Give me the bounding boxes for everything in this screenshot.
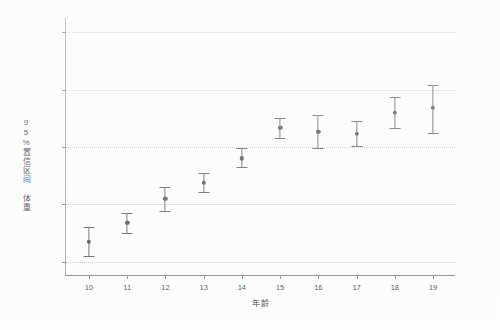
error-bar-cap-lower bbox=[275, 138, 286, 139]
error-bar-cap-upper bbox=[313, 115, 324, 116]
x-tick-label: 17 bbox=[352, 283, 360, 292]
x-tick-label: 19 bbox=[429, 283, 437, 292]
error-bar-cap-lower bbox=[428, 133, 439, 134]
data-series-group bbox=[66, 18, 455, 275]
data-point-marker bbox=[87, 239, 91, 243]
x-tick-mark bbox=[395, 275, 396, 279]
error-bar-cap-upper bbox=[428, 85, 439, 86]
data-point-marker bbox=[125, 220, 129, 224]
x-tick-mark bbox=[318, 275, 319, 279]
x-axis-title: 年龄 bbox=[66, 297, 455, 308]
error-bar-cap-lower bbox=[198, 192, 209, 193]
x-tick-mark bbox=[242, 275, 243, 279]
x-tick-label: 18 bbox=[391, 283, 399, 292]
x-tick-label: 11 bbox=[123, 283, 131, 292]
error-bar-cap-upper bbox=[389, 97, 400, 98]
error-bar-cap-lower bbox=[83, 256, 94, 257]
data-point-marker bbox=[278, 126, 282, 130]
error-bar-cap-upper bbox=[122, 213, 133, 214]
error-bar-cap-upper bbox=[236, 148, 247, 149]
error-bar-cap-upper bbox=[198, 173, 209, 174]
x-tick-mark bbox=[280, 275, 281, 279]
error-bar-cap-upper bbox=[275, 118, 286, 119]
x-tick-mark bbox=[165, 275, 166, 279]
x-tick-mark bbox=[89, 275, 90, 279]
x-tick-mark bbox=[357, 275, 358, 279]
error-bar-cap-upper bbox=[351, 121, 362, 122]
y-axis-title: 95%置信区间 体重 bbox=[21, 118, 32, 212]
x-tick-label: 16 bbox=[314, 283, 322, 292]
error-bar-cap-lower bbox=[160, 211, 171, 212]
error-bar-cap-lower bbox=[313, 148, 324, 149]
data-point-marker bbox=[163, 196, 167, 200]
data-point-marker bbox=[354, 132, 358, 136]
error-bar-cap-lower bbox=[236, 167, 247, 168]
error-bar-cap-upper bbox=[83, 227, 94, 228]
error-bar-cap-lower bbox=[389, 128, 400, 129]
error-bar-cap-upper bbox=[160, 187, 171, 188]
x-tick-label: 15 bbox=[276, 283, 284, 292]
x-tick-label: 13 bbox=[199, 283, 207, 292]
data-point-marker bbox=[240, 156, 244, 160]
data-point-marker bbox=[201, 180, 205, 184]
error-bar-cap-lower bbox=[122, 233, 133, 234]
x-tick-label: 10 bbox=[85, 283, 93, 292]
plot-area: 30.040.050.060.070.0 1011121314151617181… bbox=[65, 18, 455, 276]
error-bar-cap-lower bbox=[351, 146, 362, 147]
x-tick-mark bbox=[204, 275, 205, 279]
chart-root: 95%置信区间 体重 30.040.050.060.070.0 10111213… bbox=[0, 0, 500, 330]
x-tick-mark bbox=[433, 275, 434, 279]
data-point-marker bbox=[431, 106, 435, 110]
x-tick-mark bbox=[127, 275, 128, 279]
x-tick-label: 14 bbox=[238, 283, 246, 292]
data-point-marker bbox=[316, 129, 320, 133]
x-tick-label: 12 bbox=[161, 283, 169, 292]
data-point-marker bbox=[393, 110, 397, 114]
